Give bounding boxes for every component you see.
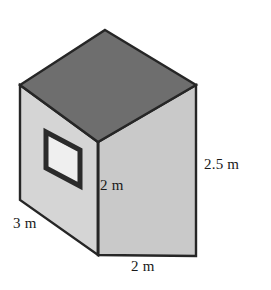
dimension-label-width: 2 m	[131, 259, 155, 274]
dimension-label-front-height: 2 m	[100, 178, 124, 193]
dimension-label-depth: 3 m	[13, 216, 37, 231]
diagram-canvas: 3 m 2 m 2.5 m 2 m	[0, 0, 271, 290]
prism-illustration	[0, 0, 271, 290]
dimension-label-side-height: 2.5 m	[204, 157, 239, 172]
